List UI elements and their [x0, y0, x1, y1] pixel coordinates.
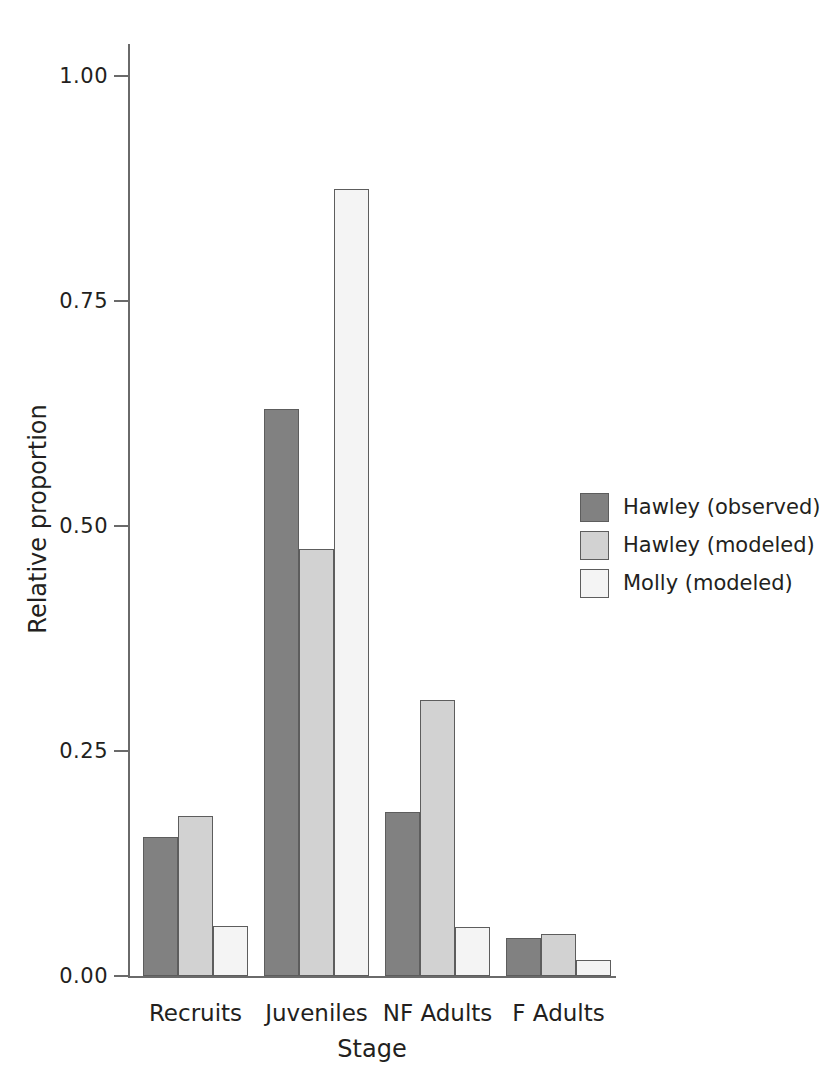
- y-tick-label: 0.50: [44, 514, 108, 538]
- legend-label: Molly (modeled): [623, 571, 793, 595]
- bar-chart-figure: 0.000.250.500.751.00 Relative proportion…: [0, 0, 824, 1092]
- chart-legend: Hawley (observed)Hawley (modeled)Molly (…: [580, 488, 820, 602]
- x-tick-label-juveniles: Juveniles: [265, 1000, 368, 1026]
- bar: [455, 927, 490, 977]
- legend-label: Hawley (modeled): [623, 533, 815, 557]
- legend-swatch-icon: [580, 531, 609, 560]
- y-tick-mark: [114, 525, 128, 527]
- bar: [334, 189, 369, 977]
- y-tick-mark: [114, 750, 128, 752]
- bar: [264, 409, 299, 976]
- y-axis-title: Relative proportion: [24, 269, 52, 769]
- bar: [213, 926, 248, 976]
- bar: [506, 938, 541, 976]
- x-tick-label-recruits: Recruits: [149, 1000, 242, 1026]
- bar: [299, 549, 334, 977]
- y-tick-label: 0.75: [44, 289, 108, 313]
- bar: [385, 812, 420, 976]
- bar: [143, 837, 178, 977]
- legend-item: Hawley (observed): [580, 488, 820, 526]
- y-tick-mark: [114, 300, 128, 302]
- legend-swatch-icon: [580, 493, 609, 522]
- bar: [576, 960, 611, 976]
- y-tick-mark: [114, 75, 128, 77]
- bar: [420, 700, 455, 976]
- y-tick-label: 0.25: [44, 739, 108, 763]
- legend-swatch-icon: [580, 569, 609, 598]
- legend-item: Molly (modeled): [580, 564, 820, 602]
- bar: [541, 934, 576, 976]
- bar: [178, 816, 213, 976]
- x-tick-label-nf-adults: NF Adults: [383, 1000, 493, 1026]
- y-tick-mark: [114, 975, 128, 977]
- x-tick-label-f-adults: F Adults: [512, 1000, 604, 1026]
- x-axis-spine: [128, 976, 616, 978]
- legend-label: Hawley (observed): [623, 495, 820, 519]
- y-tick-label: 0.00: [44, 964, 108, 988]
- bars-layer: [128, 76, 616, 976]
- y-tick-label: 1.00: [44, 64, 108, 88]
- x-axis-title: Stage: [128, 1035, 616, 1063]
- legend-item: Hawley (modeled): [580, 526, 820, 564]
